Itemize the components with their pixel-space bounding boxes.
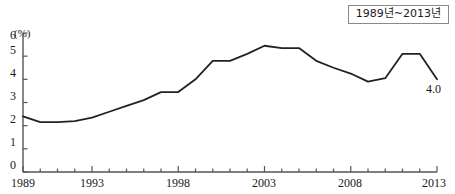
axis-lines <box>23 33 437 172</box>
plot-area <box>0 0 455 194</box>
x-axis-ticks <box>23 166 437 172</box>
line-chart: 1989년~2013년 (%) 0 1 2 3 4 5 6 1989 1993 … <box>0 0 455 194</box>
series-line-1989-2013 <box>23 46 437 122</box>
